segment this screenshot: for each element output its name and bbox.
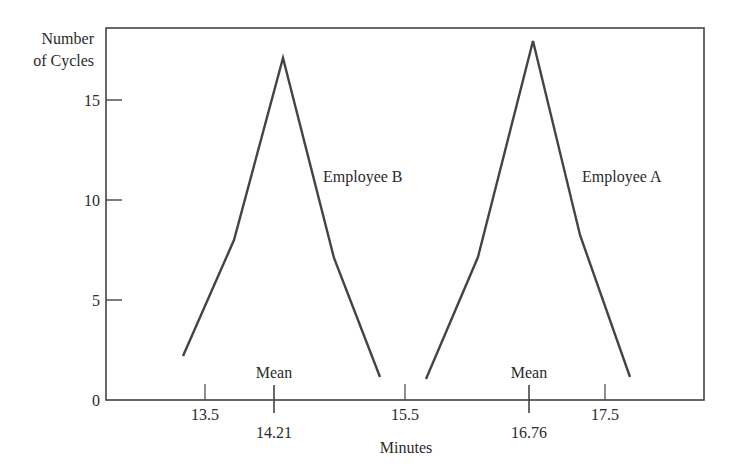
- employee-a-label: Employee A: [582, 168, 662, 186]
- x-tick-label: 13.5: [191, 406, 219, 423]
- plot-frame: [106, 28, 704, 400]
- y-tick-label: 5: [92, 292, 100, 309]
- mean-markers: Mean14.21Mean16.76: [256, 364, 547, 441]
- employee-b-line: [183, 58, 380, 377]
- x-axis-title: Minutes: [380, 439, 432, 456]
- chart: Number of Cycles 051015 13.515.517.5 Mea…: [0, 0, 730, 473]
- employee-a-line: [426, 41, 630, 379]
- y-axis-ticks: 051015: [84, 92, 122, 409]
- y-tick-label: 15: [84, 92, 100, 109]
- employee-b-label: Employee B: [323, 168, 403, 186]
- y-tick-label: 0: [92, 392, 100, 409]
- mean-value-label: 14.21: [256, 424, 292, 441]
- x-tick-label: 15.5: [391, 406, 419, 423]
- x-axis-ticks: 13.515.517.5: [191, 384, 619, 423]
- mean-caption: Mean: [256, 364, 292, 381]
- y-axis-title-line2: of Cycles: [33, 52, 94, 70]
- x-tick-label: 17.5: [591, 406, 619, 423]
- mean-caption: Mean: [511, 364, 547, 381]
- series-lines: Employee BEmployee A: [183, 41, 662, 379]
- y-axis-title-line1: Number: [42, 30, 95, 47]
- y-tick-label: 10: [84, 192, 100, 209]
- mean-value-label: 16.76: [511, 424, 547, 441]
